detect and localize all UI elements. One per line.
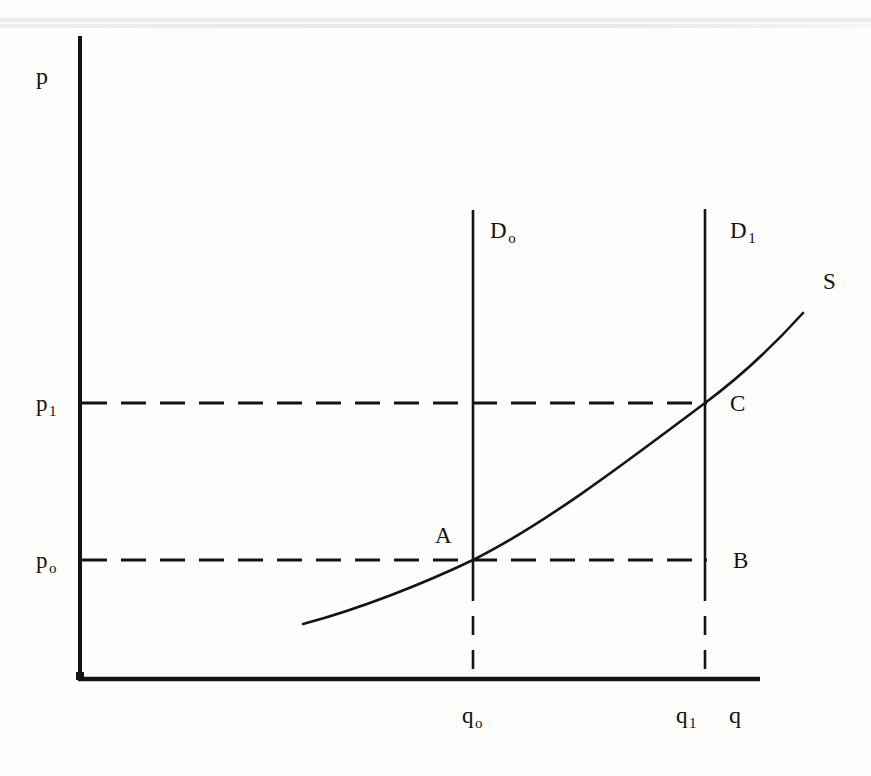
demand-curve-label-d0-base: D <box>490 218 507 243</box>
y-tick-label-p0: po <box>36 549 57 576</box>
point-label-b: B <box>733 549 749 572</box>
x-tick-label-q0: qo <box>462 704 483 731</box>
y-axis-label: p <box>36 64 49 88</box>
y-tick-label-p0-base: p <box>36 548 48 573</box>
demand-curve-label-d0: Do <box>490 219 516 246</box>
demand-curve-label-d1: D1 <box>730 219 756 246</box>
supply-curve-label: S <box>823 270 836 293</box>
x-tick-label-q1-base: q <box>676 703 688 728</box>
y-tick-label-p1-sub: 1 <box>48 403 57 419</box>
axes-origin-mark <box>76 672 84 680</box>
y-tick-label-p1-base: p <box>36 391 48 416</box>
y-tick-label-p1: p1 <box>36 392 57 419</box>
x-axis-label: q <box>729 703 742 727</box>
demand-curve-label-d1-base: D <box>730 218 747 243</box>
point-label-a: A <box>435 524 452 547</box>
demand-curve-label-d0-sub: o <box>507 230 516 246</box>
diagram-canvas <box>0 0 871 776</box>
point-label-c: C <box>730 392 746 415</box>
x-tick-label-q0-base: q <box>462 703 474 728</box>
y-axis-tip <box>79 36 82 60</box>
supply-demand-figure: p q p1 po qo q1 Do D1 S A B C <box>0 0 871 776</box>
x-tick-label-q1-sub: 1 <box>688 715 697 731</box>
x-tick-label-q0-sub: o <box>474 715 483 731</box>
x-tick-label-q1: q1 <box>676 704 697 731</box>
y-tick-label-p0-sub: o <box>48 560 57 576</box>
supply-curve <box>303 313 803 624</box>
demand-curve-label-d1-sub: 1 <box>747 230 756 246</box>
